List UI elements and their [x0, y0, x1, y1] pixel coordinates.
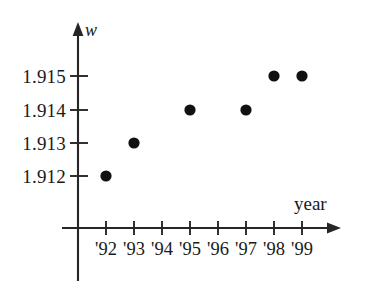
data-point	[128, 137, 139, 148]
x-tick-label-98: '98	[263, 240, 285, 259]
y-axis-arrow-icon	[73, 22, 84, 36]
x-tick-label-92: '92	[95, 240, 117, 259]
x-tick-label-93: '93	[123, 240, 145, 259]
y-tick-label-1912: 1.912	[0, 167, 66, 186]
data-point	[268, 70, 279, 81]
x-tick-label-99: '99	[291, 240, 313, 259]
x-tick-label-97: '97	[235, 240, 257, 259]
data-point	[296, 70, 307, 81]
data-point	[184, 104, 195, 115]
scatter-plot-figure: 1.915 1.914 1.913 1.912 '92 '93 '94 '95 …	[0, 0, 373, 290]
y-tick-label-1914: 1.914	[0, 101, 66, 120]
x-axis-arrow-icon	[327, 223, 341, 234]
data-point	[240, 104, 251, 115]
y-axis-label: w	[85, 21, 97, 39]
x-axis-label: year	[294, 194, 327, 213]
y-tick-label-1915: 1.915	[0, 67, 66, 86]
x-tick-label-95: '95	[179, 240, 201, 259]
x-tick-label-96: '96	[207, 240, 229, 259]
data-point	[100, 170, 111, 181]
data-point-series	[100, 70, 307, 181]
y-tick-label-1913: 1.913	[0, 134, 66, 153]
x-tick-label-94: '94	[151, 240, 173, 259]
